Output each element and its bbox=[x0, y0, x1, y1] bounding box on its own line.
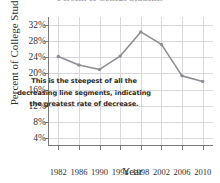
annotation-line-2: decreasing line segments, indicating bbox=[8, 88, 160, 100]
data-point-marker bbox=[77, 63, 80, 66]
data-point-marker bbox=[180, 74, 183, 77]
chart-title-clipped: Percent of College Students bbox=[0, 0, 220, 1]
y-tick-mark bbox=[44, 57, 48, 58]
chart-annotation: This is the steepest of all the decreasi… bbox=[8, 76, 160, 111]
data-point-marker bbox=[118, 54, 121, 57]
y-tick-mark bbox=[44, 73, 48, 74]
x-tick-mark bbox=[120, 146, 121, 150]
y-tick-label: 4% bbox=[6, 133, 46, 143]
line-chart: Percent of College Students Percent of C… bbox=[0, 0, 220, 183]
x-tick-mark bbox=[182, 146, 183, 150]
annotation-line-3: the greatest rate of decrease. bbox=[8, 99, 160, 111]
data-point-marker bbox=[57, 55, 60, 58]
annotation-line-1: This is the steepest of all the bbox=[8, 76, 160, 88]
x-tick-mark bbox=[203, 146, 204, 150]
data-point-marker bbox=[201, 80, 204, 83]
y-tick-mark bbox=[44, 25, 48, 26]
y-tick-mark bbox=[44, 41, 48, 42]
data-point-marker bbox=[139, 30, 142, 33]
x-tick-mark bbox=[79, 146, 80, 150]
x-tick-mark bbox=[161, 146, 162, 150]
x-axis-title: Year bbox=[45, 165, 220, 177]
x-tick-mark bbox=[141, 146, 142, 150]
series-polyline bbox=[58, 32, 202, 82]
y-tick-mark bbox=[44, 138, 48, 139]
y-tick-mark bbox=[44, 122, 48, 123]
y-tick-label: 8% bbox=[6, 117, 46, 127]
x-tick-mark bbox=[58, 146, 59, 150]
y-tick-label: 24% bbox=[6, 52, 46, 62]
y-tick-label: 32% bbox=[6, 20, 46, 30]
data-point-marker bbox=[160, 43, 163, 46]
x-tick-mark bbox=[100, 146, 101, 150]
y-tick-label: 28% bbox=[6, 36, 46, 46]
data-point-marker bbox=[98, 68, 101, 71]
